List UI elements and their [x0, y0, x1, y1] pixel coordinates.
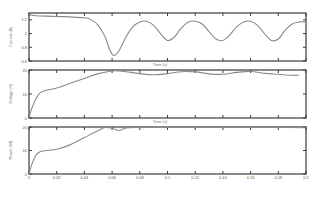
y-tick-label: 1.2: [21, 17, 27, 22]
power-line: [29, 127, 306, 174]
figure: 0.60.811.2 01020 00.020.040.060.080.10.1…: [0, 0, 320, 199]
current-panel: 0.60.811.2: [21, 13, 306, 64]
ylabel-power: Power (W): [8, 140, 13, 160]
x-tick-label: 0: [28, 175, 31, 180]
y-tick-label: 20: [23, 125, 28, 130]
y-tick-label: 1: [25, 31, 28, 36]
axes-frame: [29, 127, 306, 174]
x-tick-label: 0.2: [303, 175, 309, 180]
x-tick-label: 0.12: [191, 175, 200, 180]
y-tick-label: 0.6: [21, 59, 27, 64]
xlabel-mid: Time (s): [153, 119, 168, 124]
power-panel: 00.020.040.060.080.10.120.140.160.180.20…: [23, 125, 310, 181]
voltage-line: [29, 71, 299, 118]
ylabel-current: Current (A): [8, 26, 13, 46]
x-tick-label: 0.04: [81, 175, 90, 180]
voltage-panel: 01020: [23, 68, 306, 121]
x-tick-label: 0.06: [108, 175, 117, 180]
x-tick-label: 0.16: [247, 175, 256, 180]
x-tick-label: 0.02: [53, 175, 62, 180]
y-tick-label: 10: [23, 92, 28, 97]
axes-frame: [29, 13, 306, 61]
y-tick-label: 0.8: [21, 45, 27, 50]
current-line: [29, 14, 306, 55]
x-tick-label: 0.14: [219, 175, 228, 180]
x-tick-label: 0.08: [136, 175, 145, 180]
y-tick-label: 20: [23, 68, 28, 73]
y-tick-label: 0: [25, 116, 28, 121]
axes-frame: [29, 70, 306, 118]
ylabel-voltage: Voltage (V): [8, 83, 13, 103]
x-tick-label: 0.18: [274, 175, 283, 180]
xlabel-top: Time (s): [153, 62, 168, 67]
y-tick-label: 10: [23, 148, 28, 153]
x-tick-label: 0.1: [165, 175, 171, 180]
